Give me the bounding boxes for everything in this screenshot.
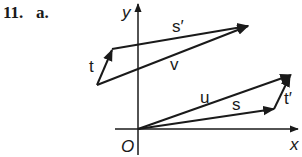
label-u: u <box>200 88 209 107</box>
y-axis-label: y <box>121 3 132 22</box>
vector-u <box>138 75 291 129</box>
problem-number: 11. <box>3 3 23 22</box>
label-s-prime: s′ <box>172 17 184 36</box>
vector-diagram: 11. a. y x O s′ t v u s t′ <box>0 0 302 157</box>
origin-label: O <box>121 137 134 156</box>
label-t: t <box>89 57 94 76</box>
vector-s <box>138 109 274 129</box>
x-axis-label: x <box>289 135 299 154</box>
label-t-prime: t′ <box>284 89 292 108</box>
problem-part: a. <box>36 3 49 22</box>
label-s: s <box>232 95 241 114</box>
label-v: v <box>170 55 179 74</box>
diagram: 11. a. y x O s′ t v u s t′ <box>0 0 302 157</box>
